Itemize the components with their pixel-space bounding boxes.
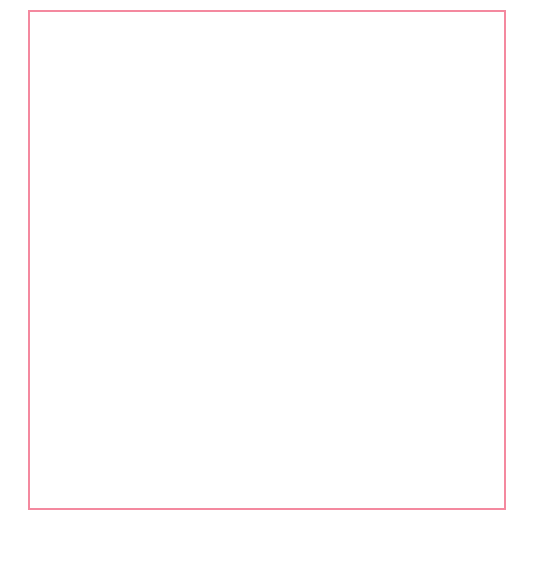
figure-border — [28, 10, 506, 510]
chart-figure: 0200040006000800010000120001400016000198… — [0, 0, 536, 563]
